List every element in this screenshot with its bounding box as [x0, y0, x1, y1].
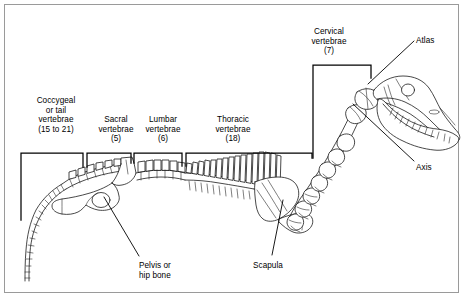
label-atlas: Atlas [416, 36, 460, 46]
tail-vertebrae-chain [25, 184, 66, 281]
leader-line-pelvis [104, 197, 139, 256]
lumbar-vertebrae [136, 160, 185, 180]
label-scapula: Scapula [253, 261, 305, 271]
pelvis-bone [52, 183, 119, 214]
label-axis: Axis [416, 163, 460, 173]
label-pelvis-or-hip-bone: Pelvis or hip bone [139, 261, 197, 280]
label-sacral-vertebrae: Sacral vertebrae (5) [92, 115, 140, 144]
label-thoracic-vertebrae: Thoracic vertebrae (18) [203, 115, 263, 144]
vertebrae-diagram-figure: Coccygeal or tail vertebrae (15 to 21) S… [0, 0, 469, 306]
label-cervical-vertebrae: Cervical vertebrae (7) [299, 27, 359, 56]
label-lumbar-vertebrae: Lumbar vertebrae (6) [139, 115, 187, 144]
cervical-vertebrae [287, 112, 359, 232]
label-coccygeal-vertebrae: Coccygeal or tail vertebrae (15 to 21) [24, 96, 88, 134]
diagram-canvas [0, 0, 469, 306]
